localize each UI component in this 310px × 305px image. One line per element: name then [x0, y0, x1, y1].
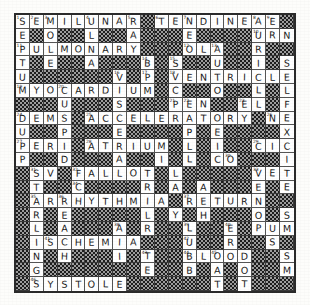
- grid-letter-cell[interactable]: M: [280, 263, 294, 277]
- grid-letter-cell[interactable]: 31S: [30, 167, 44, 181]
- grid-letter-cell[interactable]: T: [211, 277, 225, 291]
- grid-letter-cell[interactable]: 46S: [30, 277, 44, 291]
- grid-letter-cell[interactable]: O: [72, 43, 86, 57]
- grid-letter-cell[interactable]: 27P: [16, 139, 30, 153]
- grid-letter-cell[interactable]: O: [44, 84, 58, 98]
- grid-letter-cell[interactable]: 22E: [183, 98, 197, 112]
- grid-letter-cell[interactable]: 28A: [85, 139, 99, 153]
- grid-letter-cell[interactable]: 40E: [224, 222, 238, 236]
- grid-letter-cell[interactable]: I: [211, 15, 225, 29]
- grid-letter-cell[interactable]: L: [266, 70, 280, 84]
- grid-letter-cell[interactable]: E: [58, 208, 72, 222]
- grid-letter-cell[interactable]: L: [183, 139, 197, 153]
- grid-letter-cell[interactable]: M: [44, 112, 58, 126]
- grid-letter-cell[interactable]: A: [85, 56, 99, 70]
- grid-letter-cell[interactable]: O: [252, 208, 266, 222]
- grid-letter-cell[interactable]: P: [183, 125, 197, 139]
- grid-letter-cell[interactable]: M: [141, 84, 155, 98]
- grid-letter-cell[interactable]: I: [58, 15, 72, 29]
- grid-letter-cell[interactable]: U: [127, 84, 141, 98]
- grid-letter-cell[interactable]: D: [58, 153, 72, 167]
- grid-letter-cell[interactable]: A: [197, 181, 211, 195]
- grid-letter-cell[interactable]: N: [85, 43, 99, 57]
- grid-letter-cell[interactable]: I: [127, 139, 141, 153]
- grid-letter-cell[interactable]: 45O: [211, 250, 225, 264]
- grid-letter-cell[interactable]: A: [127, 29, 141, 43]
- grid-letter-cell[interactable]: R: [85, 84, 99, 98]
- grid-letter-cell[interactable]: I: [141, 194, 155, 208]
- grid-letter-cell[interactable]: E: [113, 125, 127, 139]
- grid-letter-cell[interactable]: L: [44, 43, 58, 57]
- grid-letter-cell[interactable]: C: [113, 112, 127, 126]
- grid-letter-cell[interactable]: C: [280, 139, 294, 153]
- grid-letter-cell[interactable]: A: [58, 222, 72, 236]
- grid-letter-cell[interactable]: E: [141, 263, 155, 277]
- grid-letter-cell[interactable]: T: [280, 167, 294, 181]
- grid-letter-cell[interactable]: A: [155, 194, 169, 208]
- grid-letter-cell[interactable]: 37R: [183, 194, 197, 208]
- grid-letter-cell[interactable]: U: [141, 139, 155, 153]
- grid-letter-cell[interactable]: L: [72, 15, 86, 29]
- grid-letter-cell[interactable]: L: [99, 277, 113, 291]
- grid-letter-cell[interactable]: E: [127, 112, 141, 126]
- grid-letter-cell[interactable]: T: [16, 56, 30, 70]
- grid-letter-cell[interactable]: 8A: [252, 15, 266, 29]
- grid-letter-cell[interactable]: A: [72, 84, 86, 98]
- grid-letter-cell[interactable]: 11P: [16, 43, 30, 57]
- grid-letter-cell[interactable]: T: [197, 112, 211, 126]
- grid-letter-cell[interactable]: E: [280, 112, 294, 126]
- grid-letter-cell[interactable]: 20C: [58, 84, 72, 98]
- grid-letter-cell[interactable]: R: [141, 181, 155, 195]
- grid-letter-cell[interactable]: 26N: [266, 112, 280, 126]
- grid-letter-cell[interactable]: T: [30, 181, 44, 195]
- grid-letter-cell[interactable]: L: [169, 167, 183, 181]
- grid-letter-cell[interactable]: E: [266, 167, 280, 181]
- grid-letter-cell[interactable]: L: [30, 222, 44, 236]
- grid-letter-cell[interactable]: S: [280, 208, 294, 222]
- grid-letter-cell[interactable]: 39L: [183, 222, 197, 236]
- grid-letter-cell[interactable]: R: [224, 112, 238, 126]
- grid-letter-cell[interactable]: 25A: [85, 112, 99, 126]
- grid-letter-cell[interactable]: R: [238, 194, 252, 208]
- grid-letter-cell[interactable]: 10U: [252, 29, 266, 43]
- grid-letter-cell[interactable]: R: [252, 43, 266, 57]
- grid-letter-cell[interactable]: T: [99, 139, 113, 153]
- grid-letter-cell[interactable]: I: [113, 236, 127, 250]
- grid-letter-cell[interactable]: C: [252, 70, 266, 84]
- grid-letter-cell[interactable]: E: [16, 29, 30, 43]
- grid-letter-cell[interactable]: 9E: [266, 15, 280, 29]
- grid-letter-cell[interactable]: I: [113, 250, 127, 264]
- grid-letter-cell[interactable]: 4U: [85, 15, 99, 29]
- grid-letter-cell[interactable]: T: [211, 70, 225, 84]
- grid-letter-cell[interactable]: N: [252, 194, 266, 208]
- grid-letter-cell[interactable]: C: [169, 84, 183, 98]
- grid-letter-cell[interactable]: Y: [238, 112, 252, 126]
- grid-letter-cell[interactable]: O: [85, 277, 99, 291]
- grid-letter-cell[interactable]: 12O: [183, 43, 197, 57]
- grid-letter-cell[interactable]: 33V: [252, 167, 266, 181]
- grid-letter-cell[interactable]: 5R: [127, 15, 141, 29]
- grid-letter-cell[interactable]: M: [155, 139, 169, 153]
- grid-letter-cell[interactable]: M: [99, 236, 113, 250]
- grid-letter-cell[interactable]: E: [155, 112, 169, 126]
- grid-letter-cell[interactable]: T: [99, 194, 113, 208]
- grid-letter-cell[interactable]: Y: [127, 43, 141, 57]
- grid-letter-cell[interactable]: E: [183, 70, 197, 84]
- grid-letter-cell[interactable]: P: [252, 222, 266, 236]
- grid-letter-cell[interactable]: U: [266, 222, 280, 236]
- grid-letter-cell[interactable]: A: [113, 15, 127, 29]
- crossword-grid[interactable]: 1S2E3MIL4UNA5R6TE7NDINE8A9EEOLAE10URN11P…: [16, 15, 294, 291]
- grid-letter-cell[interactable]: O: [211, 84, 225, 98]
- grid-letter-cell[interactable]: O: [127, 167, 141, 181]
- grid-letter-cell[interactable]: U: [58, 98, 72, 112]
- grid-letter-cell[interactable]: C: [99, 112, 113, 126]
- grid-letter-cell[interactable]: R: [30, 208, 44, 222]
- grid-letter-cell[interactable]: H: [72, 194, 86, 208]
- grid-letter-cell[interactable]: O: [44, 29, 58, 43]
- grid-letter-cell[interactable]: 18V: [169, 70, 183, 84]
- grid-letter-cell[interactable]: 3M: [44, 15, 58, 29]
- grid-letter-cell[interactable]: 36R: [58, 194, 72, 208]
- grid-letter-cell[interactable]: D: [238, 250, 252, 264]
- grid-letter-cell[interactable]: O: [211, 112, 225, 126]
- grid-letter-cell[interactable]: E: [280, 70, 294, 84]
